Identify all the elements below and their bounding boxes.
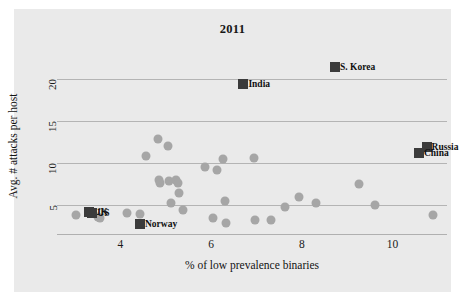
scatter-point[interactable] [220, 196, 229, 205]
x-axis-title: % of low prevalence binaries [57, 259, 447, 271]
scatter-point[interactable] [250, 153, 259, 162]
scatter-point[interactable] [142, 152, 151, 161]
scatter-point[interactable] [218, 154, 227, 163]
scatter-point[interactable] [267, 216, 276, 225]
scatter-point[interactable] [200, 163, 209, 172]
highlight-label-china: China [424, 148, 449, 158]
scatter-point[interactable] [175, 189, 184, 198]
highlight-marker-us[interactable] [87, 208, 97, 218]
x-tick-label-10: 10 [387, 238, 399, 250]
scatter-point[interactable] [156, 178, 165, 187]
scatter-point[interactable] [251, 215, 260, 224]
scatter-point[interactable] [167, 199, 176, 208]
highlight-marker-norway[interactable] [135, 219, 145, 229]
scatter-point[interactable] [280, 203, 289, 212]
scatter-point[interactable] [212, 166, 221, 175]
y-axis-title-text: Avg. # attacks per host [7, 94, 19, 199]
scatter-point[interactable] [294, 192, 303, 201]
scatter-point[interactable] [312, 199, 321, 208]
chart-figure: 2011 Avg. # attacks per host 5101520S. K… [0, 0, 465, 302]
scatter-point[interactable] [136, 210, 145, 219]
scatter-point[interactable] [123, 208, 132, 217]
chart-title: 2011 [0, 22, 465, 37]
y-axis-title: Avg. # attacks per host [4, 58, 22, 234]
x-tick-label-6: 6 [208, 238, 214, 250]
x-tick-label-8: 8 [299, 238, 305, 250]
x-axis-line [57, 234, 447, 235]
highlight-label-norway: Norway [145, 219, 177, 229]
gridline-y [57, 163, 447, 164]
scatter-point[interactable] [174, 178, 183, 187]
y-tick-label-10: 10 [46, 163, 58, 174]
scatter-point[interactable] [354, 179, 363, 188]
y-tick-label-5: 5 [46, 205, 58, 211]
plot-area: 5101520S. KoreaIndiaRussiaChinaUKUSNorwa… [57, 58, 447, 234]
highlight-marker-china[interactable] [414, 148, 424, 158]
gridline-y [57, 121, 447, 122]
scatter-point[interactable] [209, 213, 218, 222]
scatter-point[interactable] [179, 206, 188, 215]
y-tick-label-15: 15 [46, 121, 58, 132]
x-tick-label-4: 4 [118, 238, 124, 250]
scatter-point[interactable] [222, 218, 231, 227]
highlight-label-s-korea: S. Korea [340, 62, 375, 72]
scatter-point[interactable] [72, 211, 81, 220]
scatter-point[interactable] [153, 134, 162, 143]
gridline-y [57, 205, 447, 206]
highlight-label-us: US [97, 208, 109, 218]
highlight-marker-s-korea[interactable] [330, 62, 340, 72]
highlight-marker-india[interactable] [238, 79, 248, 89]
scatter-point[interactable] [429, 211, 438, 220]
scatter-point[interactable] [371, 200, 380, 209]
scatter-point[interactable] [164, 142, 173, 151]
y-tick-label-20: 20 [46, 79, 58, 90]
highlight-label-india: India [248, 79, 270, 89]
